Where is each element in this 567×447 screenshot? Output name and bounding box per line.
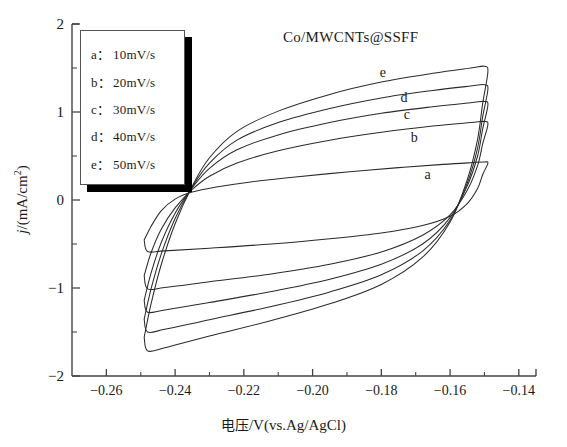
legend-item-50mv: e：50mV/s — [81, 158, 184, 171]
x-tick-label: −0.18 — [365, 383, 397, 399]
x-tick-label: −0.24 — [159, 383, 191, 399]
chart-title: Co/MWCNTs@SSFF — [283, 29, 418, 46]
cv-curve-e — [144, 66, 488, 351]
cv-curve-b — [144, 121, 488, 289]
cv-curve-c — [144, 101, 488, 312]
legend-box: a：10mV/sb：20mV/sc：30mV/sd：40mV/se：50mV/s — [80, 30, 185, 185]
x-axis-label-unit: /V(vs.Ag/AgCl) — [249, 417, 346, 433]
legend-list: a：10mV/sb：20mV/sc：30mV/sd：40mV/se：50mV/s — [81, 39, 184, 184]
legend-item-value: 20mV/s — [113, 76, 155, 89]
curve-label-b: b — [411, 131, 418, 145]
legend-item-value: 10mV/s — [113, 48, 155, 61]
legend-item-10mv: a：10mV/s — [81, 48, 184, 61]
legend-item-key: a： — [91, 48, 113, 61]
x-tick-label: −0.16 — [434, 383, 466, 399]
x-tick-label: −0.26 — [90, 383, 122, 399]
y-axis-label: j/(mA/cm2) — [12, 135, 31, 265]
legend-item-value: 30mV/s — [113, 103, 155, 116]
cv-figure: −0.26−0.24−0.22−0.20−0.18−0.16−0.14 210−… — [0, 0, 567, 447]
y-tick-label: −1 — [26, 280, 64, 297]
curve-label-e: e — [380, 66, 386, 80]
legend-item-value: 50mV/s — [113, 158, 155, 171]
y-tick-label: 2 — [26, 16, 64, 33]
legend-item-key: d： — [91, 130, 113, 143]
curve-label-d: d — [400, 91, 407, 105]
y-axis-label-symbol: j — [14, 230, 30, 234]
x-axis-label: 电压/V(vs.Ag/AgCl) — [0, 414, 567, 434]
y-tick-label: 0 — [26, 192, 64, 209]
legend-item-40mv: d：40mV/s — [81, 130, 184, 143]
legend-item-key: c： — [91, 103, 113, 116]
legend-item-key: e： — [91, 158, 113, 171]
x-tick-label: −0.14 — [503, 383, 535, 399]
curve-label-a: a — [424, 168, 430, 182]
y-tick-label: 1 — [26, 104, 64, 121]
curves — [144, 66, 488, 351]
legend-item-20mv: b：20mV/s — [81, 76, 184, 89]
curve-label-c: c — [404, 108, 410, 122]
y-tick-label: −2 — [26, 368, 64, 385]
legend-item-value: 40mV/s — [113, 130, 155, 143]
legend-item-key: b： — [91, 76, 113, 89]
x-tick-label: −0.22 — [228, 383, 260, 399]
cv-curve-d — [144, 85, 488, 333]
x-tick-label: −0.20 — [296, 383, 328, 399]
legend-item-30mv: c：30mV/s — [81, 103, 184, 116]
x-axis-label-cjk: 电压 — [221, 417, 249, 433]
y-axis-label-unit: /(mA/cm2) — [14, 165, 30, 229]
